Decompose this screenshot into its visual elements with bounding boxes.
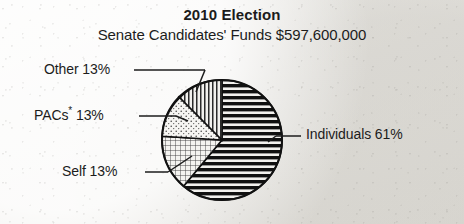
- slice-label-self: Self 13%: [62, 163, 117, 179]
- slice-label-pacs: PACs* 13%: [34, 107, 104, 123]
- slice-label-pacs-name: PACs: [34, 107, 68, 123]
- slice-label-individuals: Individuals 61%: [306, 126, 403, 142]
- slice-label-pacs-value: 13%: [72, 107, 104, 123]
- chart-page: 2010 Election Senate Candidates' Funds $…: [0, 0, 464, 224]
- slice-label-other: Other 13%: [44, 61, 110, 77]
